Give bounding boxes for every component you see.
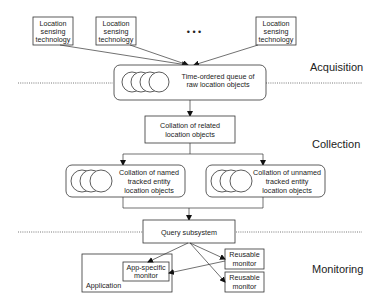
stage-label-acquisition: Acquisition <box>310 61 363 73</box>
sensor-arrows <box>60 45 258 65</box>
unnamed-objects-icon <box>211 170 252 192</box>
split-arrows <box>123 143 263 165</box>
named-objects-icon <box>71 170 112 192</box>
svg-text:Reusable: Reusable <box>229 250 259 259</box>
merge-arrows <box>123 197 263 220</box>
svg-text:location objects: location objects <box>165 130 215 139</box>
reusable-monitor-box-1: Reusable monitor <box>225 249 264 269</box>
ellipsis-more-sensors: • • • <box>187 27 201 37</box>
sensor-box-3: Location sensing technology <box>256 17 296 45</box>
svg-text:monitor: monitor <box>233 259 258 268</box>
collation-related-box: Collation of related location objects <box>145 116 235 143</box>
sensor-box-2: Location sensing technology <box>96 17 136 45</box>
raw-location-queue: Time-ordered queue of raw location objec… <box>114 65 266 100</box>
stage-label-monitoring: Monitoring <box>312 263 363 275</box>
collation-named-box: Collation of named tracked entity locati… <box>66 165 185 197</box>
svg-text:technology: technology <box>259 35 294 44</box>
app-specific-monitor-box: App-specific monitor <box>123 262 169 281</box>
architecture-diagram: Acquisition Collection Monitoring Locati… <box>0 0 377 308</box>
reusable-monitor-box-2: Reusable monitor <box>225 272 264 292</box>
svg-text:Reusable: Reusable <box>229 273 259 282</box>
svg-text:location objects: location objects <box>262 186 312 195</box>
query-subsystem-box: Query subsystem <box>143 220 235 243</box>
sensor-box-1: Location sensing technology <box>33 17 73 45</box>
svg-text:Query subsystem: Query subsystem <box>161 228 217 237</box>
collation-unnamed-box: Collation of unnamed tracked entity loca… <box>206 165 325 197</box>
svg-text:tracked entity: tracked entity <box>128 177 171 186</box>
svg-text:tracked entity: tracked entity <box>266 177 309 186</box>
svg-text:monitor: monitor <box>134 271 159 280</box>
svg-text:Collation of related: Collation of related <box>160 121 220 130</box>
svg-text:technology: technology <box>99 35 134 44</box>
svg-text:Application: Application <box>86 281 121 290</box>
svg-text:Collation of named: Collation of named <box>119 168 179 177</box>
svg-text:location objects: location objects <box>124 186 174 195</box>
stage-label-collection: Collection <box>312 138 360 150</box>
queue-objects-icon <box>122 72 169 92</box>
svg-text:raw location objects: raw location objects <box>186 80 250 89</box>
svg-text:technology: technology <box>36 35 71 44</box>
svg-text:Collation of unnamed: Collation of unnamed <box>253 168 321 177</box>
svg-text:monitor: monitor <box>233 282 258 291</box>
